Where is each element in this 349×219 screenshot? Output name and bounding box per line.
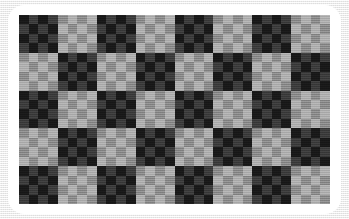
sub-square [281,72,291,81]
sub-square [281,15,291,24]
sub-square [272,176,282,185]
sub-square [320,185,330,194]
sub-square [291,72,301,81]
sub-square [291,166,301,175]
sub-square [48,91,58,100]
sub-square [155,24,165,33]
sub-square [233,91,243,100]
sub-square [97,109,107,118]
sub-square [136,81,146,90]
sub-square [126,53,136,62]
sub-square [116,100,126,109]
sub-square [68,119,78,128]
sub-square [116,147,126,156]
sub-square [19,185,29,194]
sub-square [223,176,233,185]
sub-square [233,53,243,62]
sub-square [145,185,155,194]
sub-square [175,72,185,81]
sub-square [213,43,223,52]
sub-square [29,62,39,71]
sub-square [19,62,29,71]
sub-square [58,72,68,81]
sub-square [29,195,39,204]
sub-square [233,81,243,90]
sub-square [29,24,39,33]
sub-square [155,176,165,185]
sub-square [175,166,185,175]
sub-square [106,147,116,156]
sub-square [204,91,214,100]
sub-square [213,15,223,24]
sub-square [87,15,97,24]
sub-square [19,53,29,62]
sub-square [301,43,311,52]
sub-square [320,91,330,100]
sub-square [262,81,272,90]
sub-square [252,100,262,109]
sub-square [38,185,48,194]
sub-square [243,195,253,204]
sub-square [19,81,29,90]
sub-square [38,176,48,185]
major-square-r0-c3 [136,15,175,53]
sub-square [252,81,262,90]
sub-square [233,195,243,204]
sub-square [204,119,214,128]
sub-square [233,166,243,175]
sub-square [29,100,39,109]
sub-square [77,138,87,147]
sub-square [38,138,48,147]
sub-square [145,195,155,204]
sub-square [262,138,272,147]
sub-square [145,166,155,175]
sub-square [68,176,78,185]
sub-square [301,176,311,185]
sub-square [243,185,253,194]
sub-square [233,15,243,24]
sub-square [126,15,136,24]
sub-square [19,43,29,52]
sub-square [19,72,29,81]
sub-square [223,138,233,147]
major-square-r0-c6 [252,15,291,53]
major-square-r1-c1 [58,53,97,91]
sub-square [126,109,136,118]
sub-square [136,34,146,43]
sub-square [223,195,233,204]
sub-square [262,91,272,100]
sub-square [48,166,58,175]
sub-square [272,119,282,128]
sub-square [262,119,272,128]
sub-square [233,138,243,147]
sub-square [77,185,87,194]
sub-square [136,53,146,62]
sub-square [252,195,262,204]
sub-square [175,147,185,156]
sub-square [155,15,165,24]
sub-square [320,34,330,43]
sub-square [97,81,107,90]
sub-square [29,176,39,185]
sub-square [58,176,68,185]
sub-square [213,109,223,118]
sub-square [116,43,126,52]
sub-square [106,176,116,185]
sub-square [165,119,175,128]
sub-square [77,53,87,62]
sub-square [252,53,262,62]
sub-square [68,157,78,166]
sub-square [48,24,58,33]
sub-square [301,91,311,100]
sub-square [311,15,321,24]
sub-square [155,166,165,175]
sub-square [136,91,146,100]
sub-square [145,43,155,52]
sub-square [116,24,126,33]
sub-square [204,176,214,185]
sub-square [145,128,155,137]
sub-square [126,62,136,71]
sub-square [106,185,116,194]
sub-square [145,91,155,100]
sub-square [223,166,233,175]
